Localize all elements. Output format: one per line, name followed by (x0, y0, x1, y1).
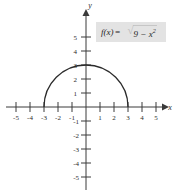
x-tick-label--4: -4 (27, 114, 33, 122)
x-tick-label--5: -5 (13, 114, 19, 122)
y-tick-label--2: -2 (73, 132, 79, 140)
x-tick-label-2: 2 (112, 114, 116, 122)
y-tick-label-1: 1 (74, 90, 78, 98)
radicand-main-text: 9 − x (134, 29, 153, 39)
x-tick-label--3: -3 (41, 114, 47, 122)
radical-icon: √ (128, 25, 133, 40)
graph-figure: -5 -4 -3 -2 -1 1 2 3 4 5 5 4 3 2 1 -1 -2… (0, 0, 176, 196)
y-tick-label--3: -3 (73, 146, 79, 154)
radicand-exponent-text: 2 (153, 28, 156, 34)
y-tick-label-5: 5 (74, 34, 78, 42)
y-axis-label: y (87, 1, 92, 10)
x-tick-label-3: 3 (126, 114, 130, 122)
x-tick-label--2: -2 (55, 114, 61, 122)
x-axis-label: x (167, 103, 172, 112)
y-tick-label-4: 4 (74, 48, 78, 56)
x-tick-label-5: 5 (154, 114, 158, 122)
y-axis-arrow-icon (83, 9, 90, 16)
x-tick-label-1: 1 (98, 114, 102, 122)
y-tick-label--1: -1 (73, 118, 79, 126)
radical-expression: √ 9 − x2 (128, 25, 157, 40)
radicand-text: 9 − x2 (133, 25, 157, 40)
x-tick-label-4: 4 (140, 114, 144, 122)
equals-sign-text: = (115, 27, 121, 37)
y-tick-label--5: -5 (73, 174, 79, 182)
y-tick-label--4: -4 (73, 160, 79, 168)
formula-expression: f(x) = √ 9 − x2 (101, 25, 157, 40)
y-tick-label-2: 2 (74, 76, 78, 84)
formula-label-box: f(x) = √ 9 − x2 (96, 22, 166, 42)
function-name-text: f(x) (101, 27, 114, 37)
